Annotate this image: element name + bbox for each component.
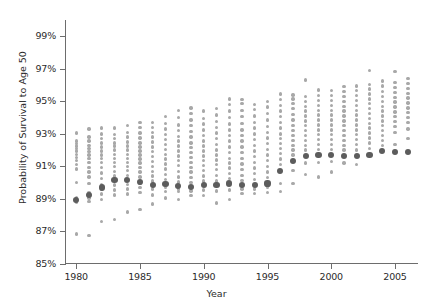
data-point (240, 192, 243, 195)
data-point (189, 194, 192, 197)
data-point (228, 116, 231, 119)
data-point (279, 121, 282, 124)
data-point (355, 138, 358, 141)
data-point (368, 92, 371, 95)
data-point (164, 148, 167, 151)
x-tick-mark (140, 264, 141, 269)
data-point (406, 137, 409, 140)
data-point (151, 193, 154, 196)
data-point (279, 142, 282, 145)
data-point (240, 162, 243, 165)
data-point (177, 170, 180, 173)
data-point (266, 131, 269, 134)
data-point (381, 144, 384, 147)
data-point (177, 149, 180, 152)
data-point (228, 103, 231, 106)
data-point (228, 188, 231, 191)
data-point (240, 139, 243, 142)
data-point (393, 81, 396, 84)
data-point (304, 161, 307, 164)
data-point (164, 122, 167, 125)
data-point (355, 99, 358, 102)
data-point (240, 157, 243, 160)
data-point (355, 84, 358, 87)
data-point (240, 151, 243, 154)
data-point (202, 174, 205, 177)
data-point (202, 154, 205, 157)
data-point (177, 123, 180, 126)
data-point (215, 168, 218, 171)
y-axis-title: Probability of Survival to Age 50 (17, 28, 28, 228)
data-point (291, 169, 294, 172)
data-point (215, 153, 218, 156)
data-point (304, 95, 307, 98)
y-tick-label: 85% (0, 258, 56, 269)
median-data-point (252, 182, 258, 188)
data-point (138, 141, 141, 144)
data-point (266, 105, 269, 108)
data-point (215, 158, 218, 161)
data-point (342, 161, 345, 164)
data-point (381, 139, 384, 142)
data-point (253, 161, 256, 164)
data-point (304, 78, 307, 81)
data-point (317, 128, 320, 131)
data-point (266, 118, 269, 121)
data-point (304, 119, 307, 122)
data-point (164, 133, 167, 136)
data-point (126, 183, 129, 186)
data-point (406, 111, 409, 114)
data-point (240, 102, 243, 105)
data-point (381, 79, 384, 82)
data-point (304, 173, 307, 176)
data-point (189, 156, 192, 159)
data-point (113, 157, 116, 160)
data-point (381, 95, 384, 98)
data-point (138, 170, 141, 173)
data-point (202, 188, 205, 191)
data-point (253, 126, 256, 129)
data-point (406, 96, 409, 99)
data-point (304, 114, 307, 117)
data-point (279, 109, 282, 112)
data-point (381, 105, 384, 108)
data-point (381, 84, 384, 87)
data-point (240, 122, 243, 125)
data-point (355, 89, 358, 92)
data-point (189, 135, 192, 138)
data-point (381, 90, 384, 93)
data-point (279, 157, 282, 160)
data-point (189, 166, 192, 169)
data-point (100, 198, 103, 201)
data-point (215, 131, 218, 134)
data-point (342, 119, 345, 122)
data-point (355, 163, 358, 166)
data-point (151, 145, 154, 148)
median-data-point (328, 152, 334, 158)
data-point (215, 174, 218, 177)
data-point (342, 85, 345, 88)
median-data-point (111, 177, 117, 183)
data-point (279, 126, 282, 129)
data-point (393, 143, 396, 146)
data-point (75, 232, 78, 235)
data-point (393, 131, 396, 134)
data-point (253, 121, 256, 124)
data-point (75, 163, 78, 166)
data-point (100, 153, 103, 156)
data-point (240, 134, 243, 137)
data-point (113, 170, 116, 173)
data-point (330, 160, 333, 163)
data-point (228, 139, 231, 142)
data-point (393, 100, 396, 103)
data-point (151, 165, 154, 168)
data-point (113, 161, 116, 164)
y-tick-mark (60, 264, 66, 265)
plot-area (66, 20, 418, 264)
data-point (228, 157, 231, 160)
data-point (266, 170, 269, 173)
data-point (126, 169, 129, 172)
data-point (215, 148, 218, 151)
data-point (138, 186, 141, 189)
data-point (368, 87, 371, 90)
